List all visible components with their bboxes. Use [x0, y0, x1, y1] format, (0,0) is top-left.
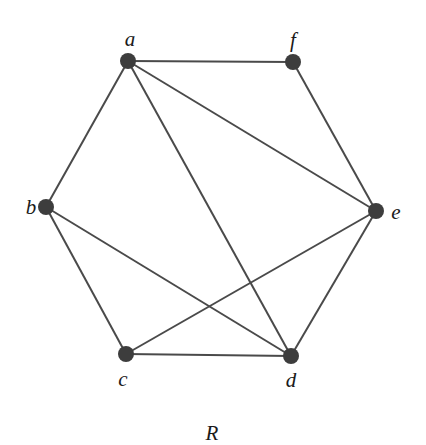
edge-a-e: [128, 61, 376, 211]
edge-e-d: [291, 211, 376, 356]
node-f: [285, 54, 301, 70]
node-a: [120, 53, 136, 69]
node-c: [118, 346, 134, 362]
node-label-a: a: [125, 27, 136, 51]
node-label-b: b: [26, 195, 37, 219]
node-d: [283, 348, 299, 364]
edge-c-d: [126, 354, 291, 356]
node-e: [368, 203, 384, 219]
node-label-e: e: [391, 200, 400, 224]
node-label-f: f: [290, 28, 299, 52]
edge-b-c: [46, 207, 126, 354]
graph-caption: R: [205, 421, 219, 445]
labels-group: afbecd: [26, 27, 401, 392]
nodes-group: [38, 53, 384, 364]
edge-a-f: [128, 61, 293, 62]
graph-diagram: afbecd R: [0, 0, 426, 445]
edge-a-b: [46, 61, 128, 207]
edges-group: [46, 61, 376, 356]
node-label-d: d: [286, 368, 297, 392]
node-b: [38, 199, 54, 215]
edge-f-e: [293, 62, 376, 211]
node-label-c: c: [118, 367, 128, 391]
edge-a-d: [128, 61, 291, 356]
